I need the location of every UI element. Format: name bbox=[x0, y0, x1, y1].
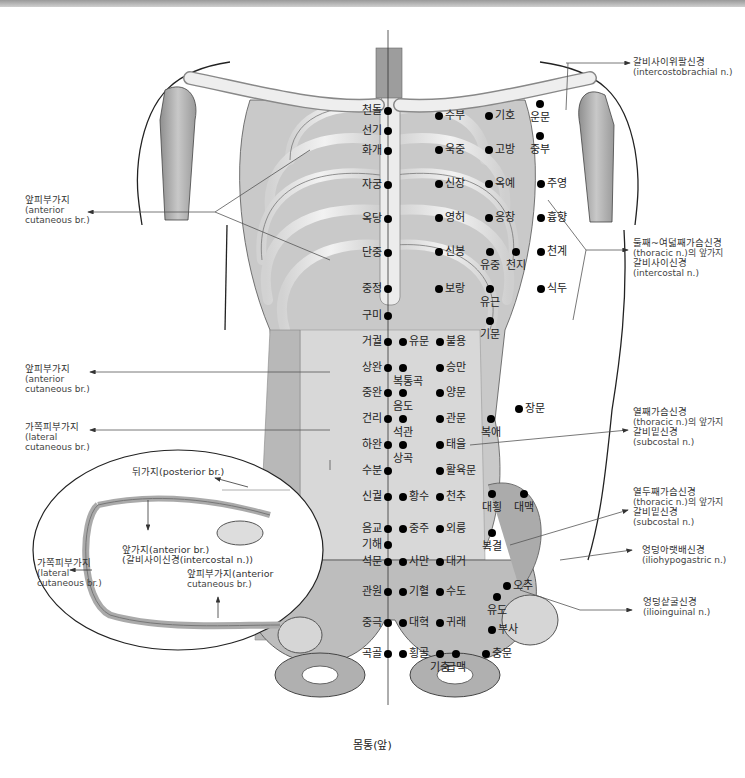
acupoint-label: 신장 bbox=[445, 178, 465, 190]
acupoint-label: 오추 bbox=[513, 580, 533, 592]
annotation-ko: 둘째~여덟째가슴신경 bbox=[633, 238, 723, 248]
annotation-iliohypogastric: 엉덩아랫배신경 (iliohypogastric n.) bbox=[642, 545, 726, 565]
acupoint-marker bbox=[485, 180, 493, 188]
acupoint-label: 복애 bbox=[481, 427, 501, 439]
annotation-ko2: 갈비밑신경 bbox=[633, 507, 723, 517]
acupoint-label: 유근 bbox=[480, 297, 500, 309]
acupoint-marker bbox=[399, 650, 407, 658]
annotation-ilioinguinal: 엉덩샅굴신경 (ilioinguinal n.) bbox=[643, 597, 710, 617]
acupoint-label: 석문 bbox=[362, 556, 382, 568]
annotation-lateral-cutaneous: 가쪽피부가지 (lateral cutaneous br.) bbox=[25, 422, 90, 452]
acupoint-label: 신궐 bbox=[362, 491, 382, 503]
acupoint-label: 주영 bbox=[547, 178, 567, 190]
annotation-ko2: 갈비밑신경 bbox=[633, 427, 723, 437]
acupoint-label: 기혈 bbox=[409, 586, 429, 598]
annotation-intercostobrachial: 갈비사이위팔신경 (intercostobrachial n.) bbox=[633, 57, 733, 77]
acupoint-label: 석관 bbox=[393, 427, 413, 439]
acupoint-label: 곡골 bbox=[362, 648, 382, 660]
acupoint-label: 구미 bbox=[362, 310, 382, 322]
acupoint-label: 장문 bbox=[525, 403, 545, 415]
acupoint-marker bbox=[435, 112, 443, 120]
acupoint-label: 상완 bbox=[362, 362, 382, 374]
annotation-ko: 엉덩아랫배신경 bbox=[642, 545, 726, 555]
acupoint-marker bbox=[436, 389, 444, 397]
acupoint-marker bbox=[436, 619, 444, 627]
acupoint-marker bbox=[399, 389, 407, 397]
acupoint-label: 상곡 bbox=[393, 453, 413, 465]
acupoint-marker bbox=[452, 650, 460, 658]
acupoint-label: 부사 bbox=[498, 624, 518, 636]
acupoint-marker bbox=[384, 441, 392, 449]
acupoint-label: 수도 bbox=[446, 586, 466, 598]
annotation-ko: 앞피부가지 bbox=[25, 364, 90, 374]
acupoint-label: 천추 bbox=[446, 491, 466, 503]
acupoint-label: 유문 bbox=[409, 336, 429, 348]
annotation-anterior-cutaneous-mid: 앞피부가지 (anterior cutaneous br.) bbox=[25, 364, 90, 394]
acupoint-marker bbox=[485, 214, 493, 222]
acupoint-marker bbox=[384, 215, 392, 223]
acupoint-marker bbox=[436, 364, 444, 372]
acupoint-label: 단중 bbox=[362, 247, 382, 259]
acupoint-marker bbox=[384, 107, 392, 115]
acupoint-marker bbox=[384, 147, 392, 155]
annotation-ko: 엉덩샅굴신경 bbox=[643, 597, 710, 607]
annotation-en2: (intercostal n.) bbox=[633, 268, 723, 278]
acupoint-marker bbox=[536, 132, 544, 140]
annotation-en: (lateral bbox=[25, 432, 90, 442]
acupoint-marker bbox=[488, 626, 496, 634]
annotation-en2: cutaneous br.) bbox=[25, 442, 90, 452]
inset-label-text: 뒤가지(posterior br.) bbox=[132, 466, 224, 477]
annotation-thoracic-12: 열두째가슴신경 (thoracic n.)의 앞가지 갈비밑신경 (subcos… bbox=[633, 487, 723, 527]
inset-label-text: 앞피부가지(anterior bbox=[187, 569, 273, 579]
acupoint-marker bbox=[537, 214, 545, 222]
acupoint-marker bbox=[487, 415, 495, 423]
acupoint-label: 양문 bbox=[446, 387, 466, 399]
acupoint-marker bbox=[435, 146, 443, 154]
acupoint-label: 유중 bbox=[480, 260, 500, 272]
acupoint-label: 보랑 bbox=[445, 283, 465, 295]
acupoint-label: 복결 bbox=[482, 541, 502, 553]
acupoint-label: 유도 bbox=[487, 605, 507, 617]
annotation-ko: 열째가슴신경 bbox=[633, 407, 723, 417]
figure-caption: 몸통(앞) bbox=[0, 736, 745, 752]
inset-label-text: (갈비사이신경(intercostal n.)) bbox=[122, 555, 253, 565]
annotation-thoracic-11: 열째가슴신경 (thoracic n.)의 앞가지 갈비밑신경 (subcost… bbox=[633, 407, 723, 447]
acupoint-label: 음도 bbox=[393, 401, 413, 413]
acupoint-marker bbox=[485, 112, 493, 120]
acupoint-marker bbox=[436, 493, 444, 501]
acupoint-marker bbox=[537, 180, 545, 188]
acupoint-label: 활육문 bbox=[446, 465, 476, 477]
annotation-anterior-cutaneous-upper: 앞피부가지 (anterior cutaneous br.) bbox=[25, 195, 90, 225]
acupoint-marker bbox=[515, 405, 523, 413]
acupoint-marker bbox=[399, 441, 407, 449]
inset-label-text: cutaneous br.) bbox=[37, 578, 102, 588]
acupoint-marker bbox=[384, 389, 392, 397]
acupoint-marker bbox=[384, 541, 392, 549]
acupoint-marker bbox=[399, 364, 407, 372]
acupoint-marker bbox=[493, 593, 501, 601]
acupoint-label: 충문 bbox=[492, 648, 512, 660]
inset-anterior-cutaneous-label: 앞피부가지(anterior cutaneous br.) bbox=[187, 569, 273, 589]
inset-anterior-br-label: 앞가지(anterior br.) (갈비사이신경(intercostal n.… bbox=[122, 545, 253, 565]
acupoint-marker bbox=[486, 248, 494, 256]
acupoint-marker bbox=[384, 312, 392, 320]
acupoint-marker bbox=[384, 558, 392, 566]
acupoint-marker bbox=[485, 146, 493, 154]
acupoint-label: 고방 bbox=[495, 144, 515, 156]
acupoint-label: 하완 bbox=[362, 439, 382, 451]
acupoint-marker bbox=[486, 317, 494, 325]
acupoint-label: 식두 bbox=[547, 283, 567, 295]
acupoint-label: 황수 bbox=[409, 491, 429, 503]
annotation-en2: (subcostal n.) bbox=[633, 437, 723, 447]
inset-label-text: (lateral bbox=[37, 568, 102, 578]
acupoint-marker bbox=[435, 180, 443, 188]
annotation-ko: 열두째가슴신경 bbox=[633, 487, 723, 497]
acupoint-label: 외릉 bbox=[446, 523, 466, 535]
acupoint-marker bbox=[512, 248, 520, 256]
acupoint-marker bbox=[399, 415, 407, 423]
acupoint-label: 수부 bbox=[445, 110, 465, 122]
acupoint-marker bbox=[384, 588, 392, 596]
acupoint-marker bbox=[399, 338, 407, 346]
acupoint-label: 기호 bbox=[495, 110, 515, 122]
acupoint-label: 귀래 bbox=[446, 617, 466, 629]
